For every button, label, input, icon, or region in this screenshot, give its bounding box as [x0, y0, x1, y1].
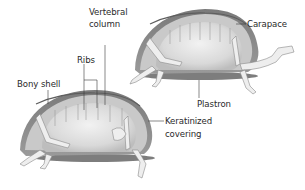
label-plastron: Plastron — [197, 99, 231, 109]
label-bony-shell: Bony shell — [17, 79, 60, 89]
label-ribs: Ribs — [77, 55, 95, 65]
diagram-canvas: Vertebral column Ribs Bony shell Carapac… — [0, 0, 305, 190]
label-keratinized-line1: Keratinized — [165, 116, 212, 126]
label-vertebral-column: Vertebral column — [89, 7, 127, 29]
label-keratinized-line2: covering — [165, 129, 212, 139]
label-keratinized-covering: Keratinized covering — [165, 116, 212, 139]
lower-left-turtle — [20, 90, 155, 178]
label-vertebral-line1: Vertebral — [89, 7, 127, 17]
label-carapace: Carapace — [247, 19, 287, 29]
label-vertebral-line2: column — [89, 19, 127, 29]
